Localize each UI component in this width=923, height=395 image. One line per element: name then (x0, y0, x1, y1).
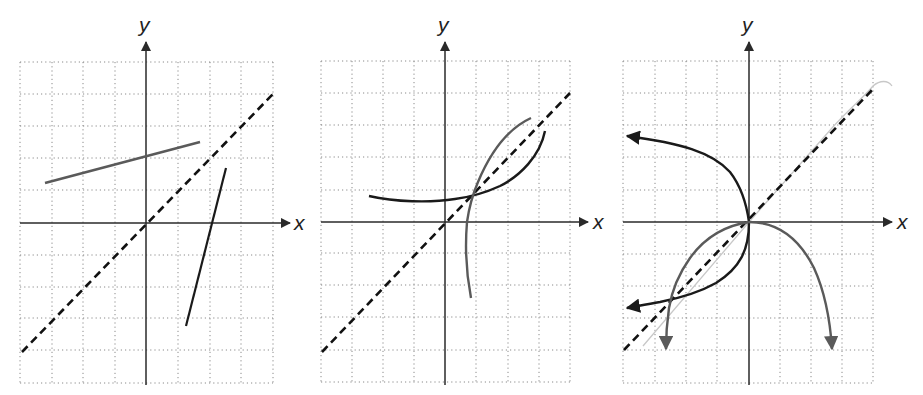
segment-b-dark (186, 168, 226, 326)
y-axis-label: y (436, 13, 450, 36)
figure-stage: x y x y (0, 0, 923, 395)
x-axis-label: x (293, 211, 306, 234)
panel-3: x y (623, 13, 909, 385)
ghost-line (643, 82, 892, 347)
segment-a-gray (45, 142, 200, 183)
curve-f-dark (369, 131, 545, 201)
curve-h-gray-right (749, 222, 832, 349)
panel-1: x y (20, 13, 306, 385)
x-axis-label: x (592, 210, 605, 233)
curve-g-dark-lower (627, 222, 749, 308)
y-axis-label: y (740, 13, 754, 36)
curve-g-dark-upper (627, 136, 749, 222)
y-axis-label: y (137, 13, 151, 36)
panel-2: x y (321, 13, 605, 385)
x-axis-label: x (896, 210, 909, 233)
